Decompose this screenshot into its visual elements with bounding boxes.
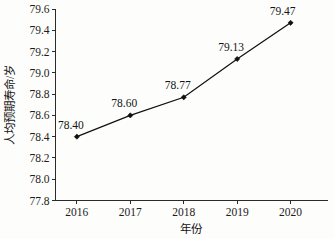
y-tick-label: 78.6 (29, 109, 49, 121)
chart-background (0, 0, 334, 239)
x-tick-label: 2016 (65, 206, 88, 218)
y-tick-label: 79.2 (29, 46, 49, 58)
data-point-label: 78.60 (111, 97, 137, 109)
data-point-label: 79.13 (218, 41, 244, 53)
x-tick-label: 2020 (279, 206, 302, 218)
data-point-label: 78.77 (165, 79, 191, 91)
chart-figure: 77.878.078.278.478.678.879.079.279.479.6… (0, 0, 334, 239)
y-tick-label: 78.0 (29, 173, 49, 185)
x-axis-title: 年份 (180, 222, 203, 235)
chart-canvas: 77.878.078.278.478.678.879.079.279.479.6… (0, 0, 334, 239)
x-tick-label: 2017 (119, 206, 142, 218)
y-tick-label: 77.8 (29, 195, 49, 207)
y-tick-label: 79.0 (29, 67, 49, 79)
y-tick-label: 79.6 (29, 3, 49, 15)
y-axis-title: 人均预期寿命/岁 (3, 65, 16, 145)
x-tick-label: 2019 (226, 206, 249, 218)
y-tick-label: 79.4 (29, 24, 49, 36)
y-tick-label: 78.8 (29, 88, 49, 100)
x-tick-label: 2018 (172, 206, 195, 218)
y-tick-label: 78.4 (29, 131, 49, 143)
data-point-label: 78.40 (58, 119, 84, 131)
y-tick-label: 78.2 (29, 152, 49, 164)
data-point-label: 79.47 (270, 5, 296, 17)
